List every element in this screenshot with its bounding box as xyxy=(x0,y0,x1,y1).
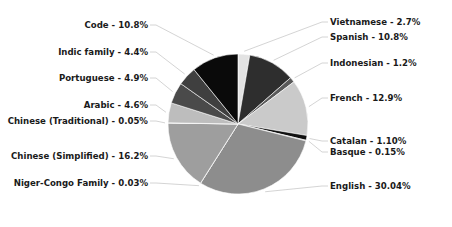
slice-label: Indic family - 4.4% xyxy=(58,47,148,57)
slice-label: Spanish - 10.8% xyxy=(330,32,408,42)
slice-label: Basque - 0.15% xyxy=(330,147,405,157)
leader-line xyxy=(150,52,185,74)
pie-chart-svg: Vietnamese - 2.7%Spanish - 10.8%Indonesi… xyxy=(0,0,452,227)
slice-label: Arabic - 4.6% xyxy=(84,100,149,110)
leader-line xyxy=(150,25,214,55)
leader-line xyxy=(265,186,328,192)
slice-label: Indonesian - 1.2% xyxy=(330,58,417,68)
pie-chart-figure: Vietnamese - 2.7%Spanish - 10.8%Indonesi… xyxy=(0,0,452,227)
leader-line xyxy=(295,63,328,78)
leader-line xyxy=(150,121,165,123)
leader-line xyxy=(150,105,166,112)
slice-label: Niger-Congo Family - 0.03% xyxy=(14,178,149,188)
leader-line xyxy=(274,37,328,60)
slice-label: Chinese (Simplified) - 16.2% xyxy=(11,151,148,161)
slice-label: Portuguese - 4.9% xyxy=(59,73,148,83)
pie-slices-group xyxy=(168,54,308,194)
leader-line xyxy=(150,156,174,159)
leader-line xyxy=(309,98,328,107)
slice-label: Vietnamese - 2.7% xyxy=(330,17,421,27)
leader-line xyxy=(150,78,173,92)
slice-label: Chinese (Traditional) - 0.05% xyxy=(8,116,149,126)
leader-line xyxy=(244,22,328,51)
leader-line xyxy=(310,139,328,141)
slice-label: English - 30.04% xyxy=(330,181,411,191)
leader-line xyxy=(150,183,199,186)
leader-line xyxy=(309,141,328,152)
slice-label: French - 12.9% xyxy=(330,93,402,103)
slice-label: Catalan - 1.10% xyxy=(330,136,407,146)
slice-label: Code - 10.8% xyxy=(84,20,148,30)
